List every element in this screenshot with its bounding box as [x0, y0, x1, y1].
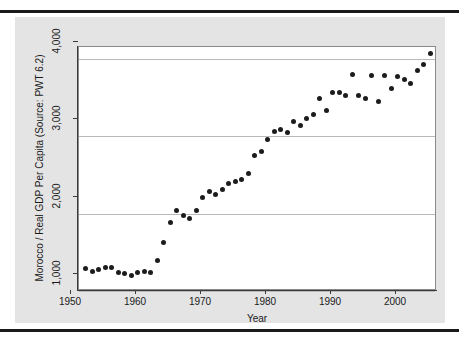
data-point: [317, 96, 322, 101]
data-point: [298, 123, 303, 128]
data-point: [252, 153, 257, 158]
data-point: [311, 112, 316, 117]
y-axis-line: [77, 46, 78, 291]
y-axis-title-text: Morocco / Real GDP Per Capita (Source: P…: [33, 55, 44, 282]
data-point: [408, 81, 413, 86]
data-point: [272, 129, 277, 134]
data-point: [83, 266, 88, 271]
data-point: [168, 220, 173, 225]
data-point: [265, 137, 270, 142]
data-point: [382, 73, 387, 78]
data-point: [233, 179, 238, 184]
gridline-3000: [79, 136, 435, 137]
data-point: [415, 68, 420, 73]
data-point: [239, 177, 244, 182]
x-tick-label-1990: 1990: [319, 296, 341, 307]
data-point: [194, 208, 199, 213]
data-point: [363, 96, 368, 101]
gridline-4000: [79, 59, 435, 60]
data-point: [343, 93, 348, 98]
data-point: [129, 273, 134, 278]
x-tick-label-1980: 1980: [254, 296, 276, 307]
data-point: [207, 189, 212, 194]
y-tick-4000: [73, 41, 78, 42]
x-tick-2000: [395, 290, 396, 294]
data-point: [148, 270, 153, 275]
x-axis-line: [78, 290, 437, 291]
data-point: [135, 270, 140, 275]
data-point: [122, 271, 127, 276]
data-point: [291, 119, 296, 124]
data-point: [278, 127, 283, 132]
data-point: [220, 187, 225, 192]
data-point: [116, 270, 121, 275]
data-point: [96, 267, 101, 272]
page-rule-top: [0, 10, 459, 13]
x-tick-1990: [330, 290, 331, 294]
x-tick-1950: [70, 290, 71, 294]
data-point: [200, 195, 205, 200]
data-point: [155, 258, 160, 263]
data-point: [213, 192, 218, 197]
data-point: [402, 77, 407, 82]
data-point: [246, 171, 251, 176]
x-tick-1980: [265, 290, 266, 294]
x-tick-1960: [135, 290, 136, 294]
x-axis-title: Year: [78, 313, 436, 324]
figure-panel: Morocco / Real GDP Per Capita (Source: P…: [15, 17, 445, 323]
data-point: [304, 116, 309, 121]
data-point: [337, 90, 342, 95]
x-tick-label-1970: 1970: [189, 296, 211, 307]
data-point: [109, 265, 114, 270]
gridline-2000: [79, 214, 435, 215]
data-point: [356, 93, 361, 98]
y-tick-label-2000: 2,000: [51, 183, 62, 208]
data-point: [259, 149, 264, 154]
data-point: [181, 213, 186, 218]
data-point: [226, 181, 231, 186]
data-point: [142, 269, 147, 274]
data-point: [103, 265, 108, 270]
data-point: [90, 269, 95, 274]
data-point: [376, 99, 381, 104]
page-rule-bottom: [0, 329, 459, 332]
gridline-1000: [79, 291, 435, 292]
data-point: [428, 51, 433, 56]
y-tick-label-4000: 4,000: [51, 28, 62, 53]
data-point: [421, 62, 426, 67]
y-tick-label-1000: 1,000: [51, 260, 62, 285]
y-tick-label-3000: 3,000: [51, 105, 62, 130]
data-point: [395, 74, 400, 79]
data-point: [350, 72, 355, 77]
plot-area: [78, 46, 436, 290]
data-point: [174, 208, 179, 213]
data-point: [324, 108, 329, 113]
figure-page: Morocco / Real GDP Per Capita (Source: P…: [0, 0, 459, 340]
data-point: [389, 86, 394, 91]
data-point: [161, 240, 166, 245]
y-axis-title: Morocco / Real GDP Per Capita (Source: P…: [32, 46, 45, 290]
data-point: [285, 130, 290, 135]
data-point: [187, 216, 192, 221]
x-tick-label-2000: 2000: [384, 296, 406, 307]
x-tick-1970: [200, 290, 201, 294]
x-tick-label-1960: 1960: [124, 296, 146, 307]
data-point: [330, 90, 335, 95]
data-point: [369, 73, 374, 78]
x-tick-label-1950: 1950: [59, 296, 81, 307]
